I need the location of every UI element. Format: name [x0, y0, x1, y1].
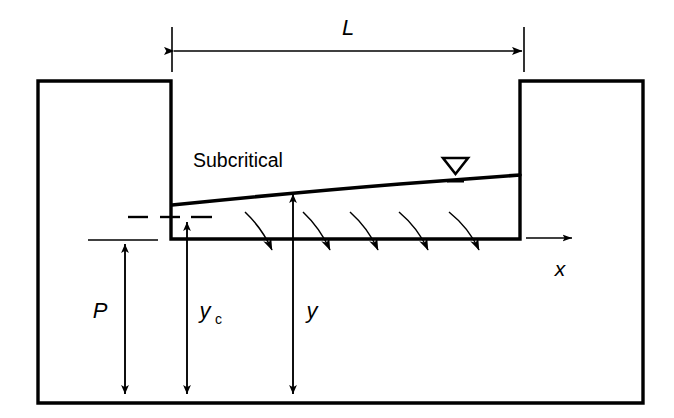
water-surface-profile [172, 175, 520, 205]
streamline-arrow [350, 212, 378, 250]
streamline-arrow [245, 212, 272, 250]
label-yc-base: y [198, 298, 213, 323]
weir-profile-path [38, 81, 643, 403]
label-subcritical: Subcritical [193, 149, 283, 171]
weir-body-outline [38, 81, 643, 403]
label-x-axis: x [554, 257, 567, 280]
label-y: y [305, 298, 320, 323]
weir-flow-diagram: L Subcritical P y c y x [0, 0, 674, 418]
label-L: L [342, 15, 354, 40]
streamline-arrow [303, 212, 330, 250]
diagram-canvas: L Subcritical P y c y x [0, 0, 674, 418]
streamline-arrow [449, 212, 479, 250]
streamline-arrow [399, 212, 428, 250]
label-P: P [93, 298, 108, 323]
free-surface-line [172, 175, 520, 205]
label-yc: y c [198, 298, 223, 327]
label-yc-subscript: c [215, 311, 222, 327]
triangle-outline [443, 158, 468, 174]
streamline-arrows [245, 212, 479, 250]
